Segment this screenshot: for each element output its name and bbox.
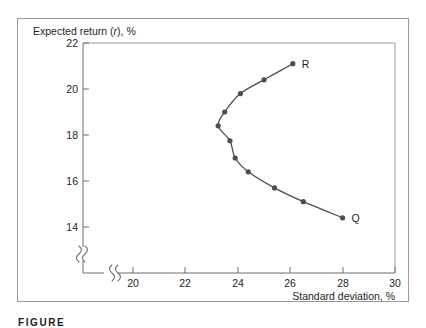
- figure-caption: FIGURE: [18, 317, 65, 328]
- frontier-curve: [218, 64, 343, 218]
- data-point: [227, 138, 232, 143]
- x-tick-label-20: 20: [127, 277, 139, 289]
- x-axis-ticks: 20 22 24 26 28 30: [127, 267, 401, 289]
- y-axis-title: Expected return (r), %: [33, 25, 136, 37]
- data-point: [233, 155, 238, 160]
- x-tick-label-26: 26: [284, 277, 296, 289]
- y-axis-title-lead: Expected return (: [33, 25, 114, 37]
- x-axis-title: Standard deviation, %: [292, 290, 395, 302]
- y-tick-label-20: 20: [66, 83, 78, 95]
- data-point: [272, 185, 277, 190]
- figure-root: Expected return (r), % 22 20 18 16 14: [0, 0, 426, 328]
- plot-frame-top-right: [83, 43, 395, 273]
- y-tick-label-14: 14: [66, 221, 78, 233]
- data-point: [290, 61, 295, 66]
- x-tick-label-30: 30: [389, 277, 401, 289]
- data-point: [246, 169, 251, 174]
- y-tick-label-22: 22: [66, 37, 78, 49]
- data-point: [340, 215, 345, 220]
- data-point: [261, 77, 266, 82]
- x-axis-break-icon-2: [110, 265, 115, 281]
- y-tick-label-16: 16: [66, 175, 78, 187]
- figure-caption-prefix: FIGURE: [18, 317, 65, 328]
- annotation-label-r: R: [302, 58, 310, 70]
- x-tick-label-28: 28: [337, 277, 349, 289]
- y-axis-ticks: 22 20 18 16 14: [66, 37, 89, 233]
- x-tick-label-22: 22: [179, 277, 191, 289]
- data-point: [238, 91, 243, 96]
- data-point: [222, 109, 227, 114]
- data-point: [301, 199, 306, 204]
- x-tick-label-24: 24: [232, 277, 244, 289]
- frontier-data-points: [216, 61, 346, 220]
- annotation-label-q: Q: [352, 212, 360, 224]
- chart-canvas: Expected return (r), % 22 20 18 16 14: [0, 0, 426, 328]
- y-axis-title-tail: ), %: [117, 25, 136, 37]
- y-axis-break-icon: [77, 246, 82, 262]
- y-tick-label-18: 18: [66, 129, 78, 141]
- data-point: [216, 123, 221, 128]
- y-axis-break-icon-2: [83, 246, 88, 262]
